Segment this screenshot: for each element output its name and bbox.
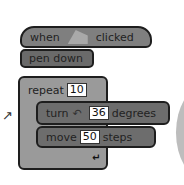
move-suffix: steps [103, 131, 133, 144]
move-steps-input[interactable]: 50 [80, 130, 100, 144]
turn-block[interactable]: turn ↶ 36 degrees [36, 101, 170, 125]
repeat-label: repeat [28, 84, 64, 97]
move-label: move [46, 131, 77, 144]
hat-suffix: clicked [96, 31, 134, 44]
turn-label: turn [46, 107, 69, 120]
pen-down-label: pen down [29, 52, 83, 65]
move-block[interactable]: move 50 steps [36, 126, 156, 148]
when-flag-clicked-block[interactable]: when clicked [20, 26, 152, 48]
turn-degrees-input[interactable]: 36 [89, 106, 109, 120]
loop-arrow-icon: ↵ [92, 152, 100, 163]
rotate-left-icon: ↶ [73, 107, 82, 120]
repeat-count-input[interactable]: 10 [67, 83, 87, 97]
drag-arrow-icon: ↗ [2, 108, 13, 123]
turn-suffix: degrees [112, 107, 156, 120]
pen-down-block[interactable]: pen down [20, 49, 94, 68]
green-flag-icon [68, 30, 88, 44]
stage-circle [176, 85, 184, 180]
hat-prefix: when [30, 31, 60, 44]
